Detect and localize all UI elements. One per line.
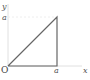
x-axis-label: x xyxy=(83,66,88,75)
x-tick-label: a xyxy=(54,66,59,75)
y-axis-label: y xyxy=(1,2,7,11)
right-triangle xyxy=(8,17,57,66)
triangle-diagram: y a O a x xyxy=(0,0,90,80)
y-tick-label: a xyxy=(2,13,7,22)
origin-label: O xyxy=(1,65,8,75)
